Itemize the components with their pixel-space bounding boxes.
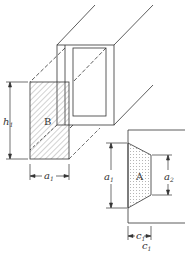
bearing-area-diagram: B h1 a1 A a1 — [0, 0, 190, 257]
column-front-inner — [73, 48, 106, 116]
label-b: B — [44, 116, 51, 127]
label-a: A — [135, 171, 144, 182]
label-c1-outer: c1 — [142, 240, 151, 252]
label-h1: h1 — [3, 116, 13, 128]
region-b: B — [30, 82, 100, 159]
region-a: A — [128, 143, 151, 208]
edge-top-left — [57, 5, 95, 45]
edge-top-right — [114, 5, 153, 45]
edge-bottom-right — [114, 85, 153, 125]
